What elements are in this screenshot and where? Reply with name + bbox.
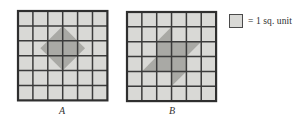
grid-comparison-figure: A B = 1 sq. unit	[0, 0, 307, 129]
legend: = 1 sq. unit	[229, 14, 292, 28]
unit-square-swatch	[229, 14, 243, 28]
grid-figure-b	[125, 10, 218, 103]
figure-label-a: A	[47, 105, 77, 116]
legend-label: = 1 sq. unit	[248, 16, 292, 26]
grid-figure-a	[16, 9, 109, 102]
figure-label-b: B	[157, 105, 187, 116]
